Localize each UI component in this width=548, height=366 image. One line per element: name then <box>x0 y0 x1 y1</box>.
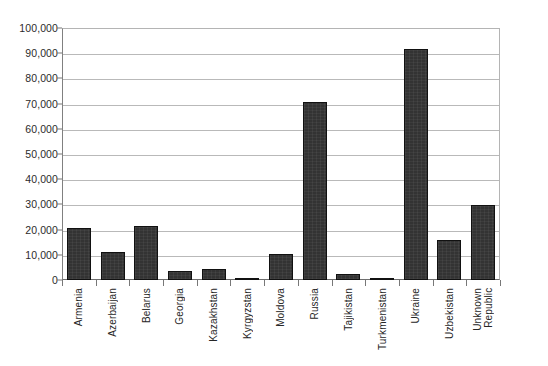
x-axis-category-text: Uzbekistan <box>444 288 455 339</box>
x-axis-tick-mark <box>500 280 501 286</box>
bar <box>404 49 428 280</box>
y-axis-tick-label: 40,000 <box>25 173 58 185</box>
x-axis-tick-mark <box>197 280 198 286</box>
x-axis-category-label: Armenia <box>62 288 96 366</box>
x-axis-labels: ArmeniaAzerbaijanBelarusGeorgiaKazakhsta… <box>62 288 500 366</box>
bar <box>202 269 226 280</box>
x-axis-category-label: Uzbekistan <box>433 288 467 366</box>
x-axis-category-text: Ukraine <box>410 288 421 324</box>
x-axis-category-label: Unknown Republic <box>466 288 500 366</box>
bar <box>101 252 125 280</box>
x-axis-category-text: Russia <box>309 288 320 319</box>
y-axis-tick-label: 30,000 <box>25 198 58 210</box>
x-axis-category-text: Unknown Republic <box>472 288 494 331</box>
x-axis-tick-mark <box>332 280 333 286</box>
x-axis-tick-mark <box>264 280 265 286</box>
bar-slot <box>230 28 264 280</box>
x-axis-tick-mark <box>163 280 164 286</box>
bar-slot <box>399 28 433 280</box>
x-axis-category-label: Russia <box>298 288 332 366</box>
x-axis-tick-mark <box>365 280 366 286</box>
bar-slot <box>264 28 298 280</box>
x-axis-category-text: Georgia <box>174 288 185 325</box>
bar-slot <box>129 28 163 280</box>
bar <box>269 254 293 280</box>
x-axis-tick-mark <box>129 280 130 286</box>
bar <box>336 274 360 280</box>
x-axis-category-label: Ukraine <box>399 288 433 366</box>
y-axis-tick-label: 60,000 <box>25 123 58 135</box>
x-axis-tick-mark <box>230 280 231 286</box>
x-axis-category-text: Belarus <box>141 288 152 323</box>
x-axis-category-text: Kazakhstan <box>208 288 219 342</box>
y-axis-tick-label: 10,000 <box>25 249 58 261</box>
x-axis-category-text: Turkmenistan <box>377 288 388 350</box>
x-axis-tick-mark <box>62 280 63 286</box>
x-axis-tick-mark <box>466 280 467 286</box>
y-axis-tick-label: 50,000 <box>25 148 58 160</box>
y-axis-tick-label: 100,000 <box>19 22 58 34</box>
x-axis-tick-mark <box>399 280 400 286</box>
x-axis-category-text: Armenia <box>73 288 84 326</box>
bar-slot <box>298 28 332 280</box>
bar-chart: 100,00090,00080,00070,00060,00050,00040,… <box>0 0 548 366</box>
x-axis-category-label: Kazakhstan <box>197 288 231 366</box>
x-axis-category-text: Kyrgyzstan <box>242 288 253 339</box>
x-axis-tick-mark <box>433 280 434 286</box>
bar <box>370 278 394 280</box>
bar <box>303 102 327 280</box>
y-axis-tick-label: 20,000 <box>25 224 58 236</box>
x-axis-category-label: Kyrgyzstan <box>230 288 264 366</box>
x-axis-category-text: Azerbaijan <box>107 288 118 337</box>
bar <box>235 278 259 280</box>
y-axis-tick-label: 70,000 <box>25 98 58 110</box>
x-axis-category-label: Georgia <box>163 288 197 366</box>
bar-slot <box>332 28 366 280</box>
y-axis-tick-label: 90,000 <box>25 47 58 59</box>
bar-slot <box>466 28 500 280</box>
bar-slot <box>197 28 231 280</box>
x-axis-category-label: Belarus <box>129 288 163 366</box>
x-axis-category-text: Tajikistan <box>343 288 354 331</box>
x-axis-category-label: Turkmenistan <box>365 288 399 366</box>
x-axis-tick-mark <box>96 280 97 286</box>
x-axis-category-text: Moldova <box>275 288 286 327</box>
bar-slot <box>163 28 197 280</box>
bar-slot <box>433 28 467 280</box>
x-axis-category-label: Azerbaijan <box>96 288 130 366</box>
bars-layer <box>62 28 500 280</box>
x-axis-category-label: Moldova <box>264 288 298 366</box>
bar-slot <box>365 28 399 280</box>
bar <box>134 226 158 280</box>
x-axis-category-label: Tajikistan <box>332 288 366 366</box>
y-axis-tick-label: 80,000 <box>25 72 58 84</box>
bar-slot <box>96 28 130 280</box>
bar-slot <box>62 28 96 280</box>
y-axis: 100,00090,00080,00070,00060,00050,00040,… <box>0 0 58 366</box>
x-axis-tick-mark <box>298 280 299 286</box>
bar <box>437 240 461 280</box>
bar <box>67 228 91 280</box>
bar <box>168 271 192 280</box>
bar <box>471 205 495 280</box>
